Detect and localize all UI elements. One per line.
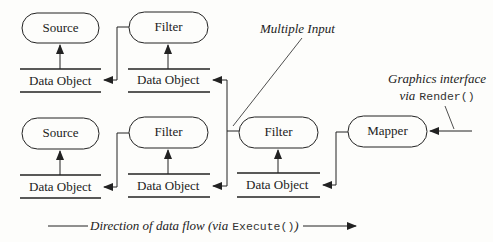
graphics-via-render-label: viaRender()	[399, 88, 474, 103]
data-object-filter-merge[interactable]: Data Object	[237, 173, 320, 197]
connector-arrow	[104, 27, 129, 80]
data-object-source-bottom[interactable]: Data Object	[20, 175, 101, 198]
multiple-input-label: Multiple Input	[259, 21, 335, 36]
source-label: Source	[42, 125, 78, 140]
data-object-filter-bottom[interactable]: Data Object	[128, 174, 210, 197]
data-object-label: Data Object	[246, 177, 309, 192]
pipeline-diagram: Source Data Object Filter Data Object So…	[0, 0, 493, 242]
filter-node-merge[interactable]: Filter	[239, 117, 318, 148]
data-object-label: Data Object	[29, 73, 92, 88]
source-node-top[interactable]: Source	[22, 13, 99, 43]
flow-direction-label: Direction of data flow (viaExecute())	[89, 218, 299, 233]
annotation-leader-line	[233, 38, 302, 126]
filter-label: Filter	[154, 19, 183, 34]
source-node-bottom[interactable]: Source	[22, 118, 99, 149]
data-object-label: Data Object	[29, 179, 92, 194]
mapper-label: Mapper	[367, 123, 408, 138]
filter-node-top[interactable]: Filter	[129, 12, 208, 43]
filter-node-bottom[interactable]: Filter	[129, 117, 208, 148]
graphics-interface-label: Graphics interface	[388, 71, 486, 86]
filter-label: Filter	[154, 124, 183, 139]
connector-arrow	[104, 133, 129, 187]
data-object-source-top[interactable]: Data Object	[20, 69, 101, 92]
connector-arrow	[323, 132, 348, 185]
filter-label: Filter	[264, 124, 293, 139]
source-label: Source	[42, 20, 78, 35]
data-object-filter-top[interactable]: Data Object	[128, 69, 210, 92]
data-object-label: Data Object	[137, 178, 200, 193]
annotation-leader-line	[445, 106, 454, 129]
mapper-node[interactable]: Mapper	[348, 116, 427, 147]
data-object-label: Data Object	[137, 72, 200, 87]
